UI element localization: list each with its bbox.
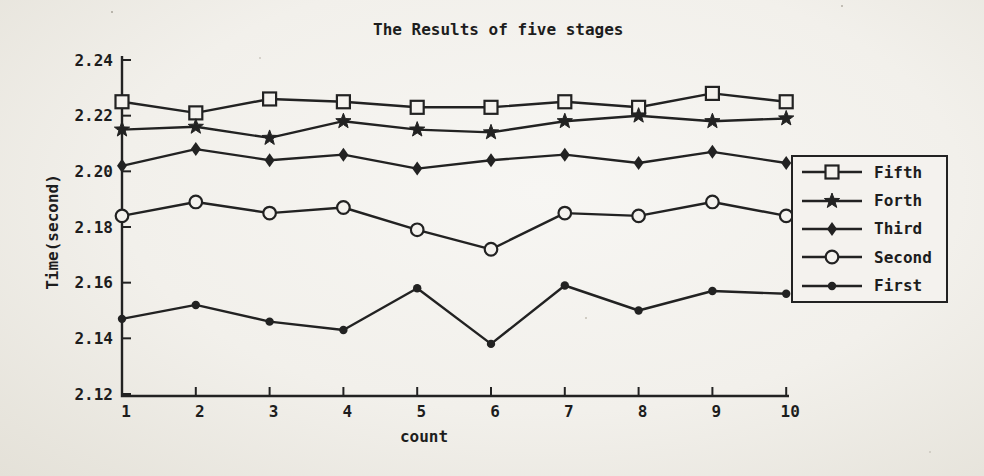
x-tick-label: 1 [121, 402, 131, 421]
square-marker-icon [558, 95, 571, 108]
star-marker-icon [705, 113, 720, 127]
diamond-marker-icon [634, 156, 644, 170]
star-marker-icon [557, 113, 572, 127]
circle-marker-icon [116, 210, 129, 223]
star-marker-icon [410, 122, 425, 136]
y-tick-label: 2.14 [74, 329, 113, 348]
series-line-third [122, 149, 786, 169]
y-tick-label: 2.16 [74, 273, 113, 292]
dot-marker-icon [828, 282, 836, 290]
series-line-fifth [122, 93, 786, 113]
diamond-marker-icon [827, 222, 837, 236]
diamond-marker-icon [486, 153, 496, 167]
legend-marker-star-icon [800, 190, 864, 212]
circle-marker-icon [263, 207, 276, 220]
legend-label: Third [874, 219, 922, 238]
square-marker-icon [780, 95, 793, 108]
legend-label: Fifth [874, 163, 922, 182]
series-line-first [122, 286, 786, 344]
x-tick-label: 3 [269, 402, 279, 421]
square-marker-icon [116, 95, 129, 108]
diamond-marker-icon [781, 156, 791, 170]
dot-marker-icon [118, 315, 126, 323]
circle-marker-icon [411, 223, 424, 236]
y-tick-label: 2.18 [74, 218, 113, 237]
square-marker-icon [706, 87, 719, 100]
circle-marker-icon [190, 196, 203, 209]
circle-marker-icon [337, 201, 350, 214]
series-line-second [122, 202, 786, 249]
star-marker-icon [779, 110, 794, 124]
legend-marker-diamond-icon [800, 218, 864, 240]
dot-marker-icon [782, 290, 790, 298]
legend-item-fifth: Fifth [800, 158, 946, 186]
legend-marker-dot-icon [800, 275, 864, 297]
square-marker-icon [263, 92, 276, 105]
star-marker-icon [336, 113, 351, 127]
diamond-marker-icon [560, 148, 570, 162]
legend-label: Second [874, 248, 932, 267]
x-tick-label: 4 [343, 402, 353, 421]
x-tick-label: 2 [195, 402, 205, 421]
legend-item-forth: Forth [800, 187, 946, 215]
diamond-marker-icon [707, 145, 717, 159]
dot-marker-icon [339, 326, 347, 334]
x-axis-label: count [394, 427, 454, 445]
y-axis-label: Time(second) [43, 132, 61, 332]
x-tick-label: 5 [416, 402, 426, 421]
dot-marker-icon [192, 301, 200, 309]
chart-title: The Results of five stages [373, 21, 623, 39]
legend-label: Forth [874, 191, 922, 210]
diamond-marker-icon [265, 153, 275, 167]
diamond-marker-icon [338, 148, 348, 162]
y-tick-label: 2.24 [74, 51, 113, 70]
legend-marker-circle-icon [800, 246, 864, 268]
x-tick-label: 9 [712, 402, 722, 421]
star-marker-icon [262, 130, 277, 144]
square-marker-icon [337, 95, 350, 108]
scanned-line-chart-page: 2.122.142.162.182.202.222.2412345678910 … [0, 0, 984, 476]
square-marker-icon [826, 166, 839, 179]
y-tick-label: 2.20 [74, 162, 113, 181]
dot-marker-icon [634, 306, 642, 314]
square-marker-icon [411, 101, 424, 114]
dot-marker-icon [265, 317, 273, 325]
x-tick-label: 8 [638, 402, 648, 421]
x-tick-label: 7 [564, 402, 574, 421]
star-marker-icon [824, 193, 839, 207]
diamond-marker-icon [412, 162, 422, 176]
dot-marker-icon [561, 281, 569, 289]
legend-marker-square-icon [800, 161, 864, 183]
circle-marker-icon [632, 210, 645, 223]
dot-marker-icon [708, 287, 716, 295]
legend: Fifth Forth Third Second First [791, 155, 948, 303]
dot-marker-icon [487, 340, 495, 348]
legend-item-first: First [800, 272, 946, 300]
x-tick-label: 10 [781, 402, 800, 421]
square-marker-icon [485, 101, 498, 114]
star-marker-icon [188, 119, 203, 133]
x-tick-label: 6 [490, 402, 500, 421]
series-line-forth [122, 116, 786, 138]
legend-item-second: Second [800, 243, 946, 271]
diamond-marker-icon [191, 142, 201, 156]
dot-marker-icon [413, 284, 421, 292]
circle-marker-icon [706, 196, 719, 209]
star-marker-icon [483, 124, 498, 138]
legend-label: First [874, 276, 922, 295]
circle-marker-icon [826, 251, 839, 264]
legend-item-third: Third [800, 215, 946, 243]
y-tick-label: 2.12 [74, 385, 113, 404]
circle-marker-icon [559, 207, 572, 220]
y-tick-label: 2.22 [74, 106, 113, 125]
circle-marker-icon [485, 243, 498, 256]
